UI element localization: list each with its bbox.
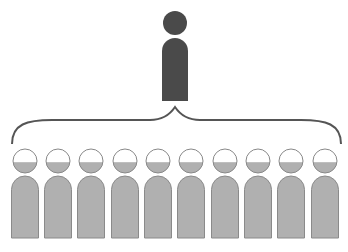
leader-body	[162, 38, 188, 101]
follower-group	[12, 149, 339, 238]
follower-body	[78, 176, 105, 238]
follower-body	[45, 176, 72, 238]
follower-figure	[312, 149, 339, 238]
follower-figure	[145, 149, 172, 238]
curly-brace	[12, 107, 341, 144]
follower-figure	[78, 149, 105, 238]
diagram-canvas	[0, 0, 348, 252]
follower-body	[312, 176, 339, 238]
follower-body	[112, 176, 139, 238]
follower-body	[245, 176, 272, 238]
follower-figure	[278, 149, 305, 238]
follower-figure	[45, 149, 72, 238]
follower-body	[212, 176, 239, 238]
follower-figure	[178, 149, 205, 238]
follower-figure	[12, 149, 39, 238]
follower-figure	[212, 149, 239, 238]
leader-figure	[162, 11, 188, 101]
follower-body	[278, 176, 305, 238]
follower-body	[178, 176, 205, 238]
follower-body	[145, 176, 172, 238]
follower-figure	[112, 149, 139, 238]
follower-body	[12, 176, 39, 238]
leader-head	[163, 11, 187, 35]
follower-figure	[245, 149, 272, 238]
